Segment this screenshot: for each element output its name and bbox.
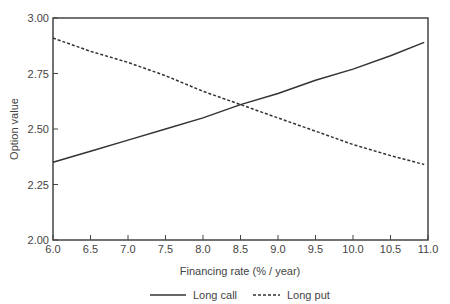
y-tick-label: 2.50 (28, 123, 49, 135)
x-tick-label: 6.0 (45, 243, 60, 255)
series-line-long-call (53, 42, 424, 162)
y-tick-label: 2.75 (28, 68, 49, 80)
x-tick-label: 7.0 (120, 243, 135, 255)
legend: Long call Long put (150, 289, 330, 301)
x-tick-label: 9.5 (308, 243, 323, 255)
x-tick-label: 10.0 (342, 243, 363, 255)
x-tick-label: 6.5 (83, 243, 98, 255)
x-tick-label: 8.0 (195, 243, 210, 255)
x-tick-label: 8.5 (233, 243, 248, 255)
x-axis-title: Financing rate (% / year) (180, 265, 300, 277)
series-lines (53, 38, 424, 165)
plot-area-border (53, 18, 428, 240)
legend-item-long-put: Long put (253, 289, 330, 301)
y-axis-title: Option value (8, 98, 20, 160)
legend-label-long-put: Long put (287, 289, 330, 301)
y-tick-label: 3.00 (28, 12, 49, 24)
legend-item-long-call: Long call (150, 289, 237, 301)
x-tick-label: 9.0 (270, 243, 285, 255)
legend-label-long-call: Long call (193, 289, 237, 301)
x-tick-label: 10.5 (380, 243, 401, 255)
y-tick-label: 2.25 (28, 179, 49, 191)
x-axis: 6.06.57.07.58.08.59.09.510.010.511.0 (45, 235, 438, 255)
x-tick-label: 7.5 (158, 243, 173, 255)
plot-frame (53, 18, 428, 240)
x-tick-label: 11.0 (418, 243, 439, 255)
option-value-chart: 2.002.252.502.753.00 6.06.57.07.58.08.59… (0, 0, 450, 304)
